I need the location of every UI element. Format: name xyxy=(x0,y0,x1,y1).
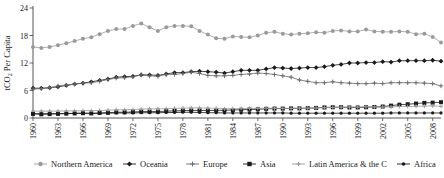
x-tick-label: 1960 xyxy=(29,123,38,139)
y-axis-title-pre: tCO xyxy=(2,76,12,90)
series-northern-america xyxy=(31,22,443,50)
data-point xyxy=(98,32,102,36)
x-tick-label: 2002 xyxy=(379,123,388,139)
data-point xyxy=(414,111,417,114)
data-point xyxy=(48,112,51,115)
data-point xyxy=(206,111,209,114)
data-point xyxy=(423,111,426,114)
data-point xyxy=(222,74,226,78)
data-point xyxy=(389,60,394,65)
data-point xyxy=(73,39,77,43)
data-point xyxy=(314,81,318,85)
data-point xyxy=(331,80,335,84)
data-point xyxy=(115,111,118,114)
data-point xyxy=(347,29,351,33)
data-point xyxy=(373,112,376,115)
data-point xyxy=(81,112,84,115)
data-point xyxy=(364,81,368,85)
data-point xyxy=(140,111,143,114)
data-point xyxy=(273,111,276,114)
data-point xyxy=(72,82,76,86)
data-point xyxy=(439,59,444,64)
data-point xyxy=(397,58,402,63)
data-point xyxy=(156,111,159,114)
data-point xyxy=(181,111,184,114)
data-point xyxy=(315,112,318,115)
data-point xyxy=(381,30,385,34)
data-point xyxy=(231,34,235,38)
data-point xyxy=(439,84,443,88)
y-axis-title: tCO2 Per Capita xyxy=(2,35,13,90)
data-point xyxy=(323,112,326,115)
y-tick-label: 12 xyxy=(20,59,28,68)
data-point xyxy=(356,81,360,85)
legend-label: Oceania xyxy=(140,159,168,169)
data-point xyxy=(231,111,234,114)
data-point xyxy=(364,28,368,32)
x-tick-label: 1969 xyxy=(104,123,113,139)
data-point xyxy=(198,29,202,33)
data-point xyxy=(198,111,201,114)
x-tick-label: 1990 xyxy=(279,123,288,139)
data-point xyxy=(289,33,293,37)
data-point xyxy=(189,24,193,28)
data-point xyxy=(339,62,344,67)
data-point xyxy=(331,112,334,115)
data-point xyxy=(298,112,301,115)
series-line xyxy=(33,24,441,48)
series-line xyxy=(33,106,441,111)
line-chart: 06121824tCO2 Per Capita19601963196619691… xyxy=(0,0,444,178)
data-point xyxy=(164,72,168,76)
y-tick-label: 24 xyxy=(20,4,28,13)
data-point xyxy=(265,111,268,114)
y-tick-label: 18 xyxy=(20,32,28,41)
data-point xyxy=(322,64,327,69)
data-point xyxy=(256,71,260,75)
data-point xyxy=(247,162,251,166)
data-point xyxy=(430,58,435,63)
x-tick-label: 1963 xyxy=(54,123,63,139)
data-point xyxy=(414,81,418,85)
x-tick-label: 1999 xyxy=(354,123,363,139)
data-point xyxy=(89,35,93,39)
chart-legend: Northern AmericaOceaniaEuropeAsiaLatin A… xyxy=(34,159,436,169)
series-line xyxy=(33,72,441,89)
data-point xyxy=(215,111,218,114)
data-point xyxy=(214,74,218,78)
data-point xyxy=(297,78,301,82)
data-point xyxy=(39,46,43,50)
data-point xyxy=(422,32,426,36)
data-point xyxy=(90,112,93,115)
data-point xyxy=(372,60,377,65)
x-tick-label: 2005 xyxy=(404,123,413,139)
data-point xyxy=(398,111,401,114)
y-tick-label: 0 xyxy=(24,114,28,123)
x-tick-label: 1993 xyxy=(304,123,313,139)
data-point xyxy=(372,81,376,85)
data-point xyxy=(148,111,151,114)
data-point xyxy=(306,79,310,83)
data-point xyxy=(355,61,360,66)
data-point xyxy=(289,75,293,79)
data-point xyxy=(248,111,251,114)
data-point xyxy=(48,45,52,49)
data-point xyxy=(190,111,193,114)
data-point xyxy=(290,112,293,115)
legend-label: Latin America & the C xyxy=(309,159,387,169)
data-point xyxy=(40,112,43,115)
y-tick-label: 6 xyxy=(24,87,28,96)
data-point xyxy=(81,81,85,85)
data-point xyxy=(314,65,319,70)
data-point xyxy=(206,33,210,37)
x-tick-label: 1972 xyxy=(129,123,138,139)
data-point xyxy=(439,40,443,44)
data-point xyxy=(240,111,243,114)
data-point xyxy=(64,83,68,87)
data-point xyxy=(38,162,42,166)
data-point xyxy=(389,30,393,34)
data-point xyxy=(389,111,392,114)
data-point xyxy=(364,60,369,65)
data-point xyxy=(173,111,176,114)
data-point xyxy=(131,111,134,114)
data-point xyxy=(439,100,443,104)
